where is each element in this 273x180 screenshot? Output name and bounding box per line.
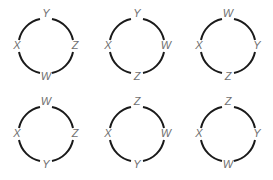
- circle-arrangement-6: Z X Y W: [182, 88, 273, 178]
- label-bottom: Z: [131, 70, 143, 82]
- label-top: Y: [40, 7, 52, 19]
- circle-arrangement-2: Y X W Z: [91, 0, 182, 90]
- label-right: Z: [69, 39, 81, 51]
- label-top: W: [222, 7, 234, 19]
- label-bottom: Z: [222, 70, 234, 82]
- circle-arrangement-1: Y X Z W: [0, 0, 91, 90]
- label-left: X: [193, 127, 205, 139]
- label-left: X: [11, 39, 23, 51]
- label-right: W: [160, 127, 172, 139]
- label-bottom: Y: [131, 158, 143, 170]
- label-top: Z: [222, 95, 234, 107]
- circle-arrangement-3: W X Y Z: [182, 0, 273, 90]
- circle-arrangement-5: Z X W Y: [91, 88, 182, 178]
- label-top: W: [40, 95, 52, 107]
- label-bottom: Y: [40, 158, 52, 170]
- label-right: Y: [251, 39, 263, 51]
- label-bottom: W: [40, 70, 52, 82]
- label-left: X: [193, 39, 205, 51]
- label-left: X: [102, 39, 114, 51]
- label-right: W: [160, 39, 172, 51]
- label-right: Y: [251, 127, 263, 139]
- label-left: X: [11, 127, 23, 139]
- label-bottom: W: [222, 158, 234, 170]
- label-right: Z: [69, 127, 81, 139]
- label-top: Y: [131, 7, 143, 19]
- label-left: X: [102, 127, 114, 139]
- circle-arrangement-4: W X Z Y: [0, 88, 91, 178]
- label-top: Z: [131, 95, 143, 107]
